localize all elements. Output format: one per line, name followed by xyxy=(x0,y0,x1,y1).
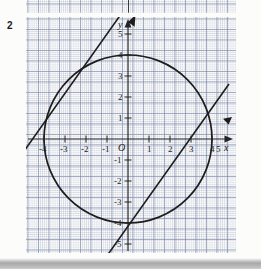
x-tick-label--2: -2 xyxy=(81,145,89,154)
secant-line-lower-right xyxy=(104,84,229,253)
x-tick-label-3: 3 xyxy=(189,145,194,154)
x-tick-label-4: 4 xyxy=(210,145,215,154)
worksheet-page: 2 xyxy=(0,0,261,258)
x-tick-label--4: -4 xyxy=(39,145,47,154)
y-tick-label--4: -4 xyxy=(114,219,122,228)
y-tick-label--2: -2 xyxy=(114,177,122,186)
y-tick-label--3: -3 xyxy=(114,198,122,207)
x-tick-label-2: 2 xyxy=(168,145,173,154)
x-axis-label: x xyxy=(224,143,228,153)
y-tick-label--5: -5 xyxy=(114,240,122,249)
x-tick-label--1: -1 xyxy=(102,145,110,154)
secant-line-arrowhead xyxy=(223,117,232,124)
y-tick-label-1: 1 xyxy=(118,114,123,123)
y-tick-label--1: -1 xyxy=(114,156,122,165)
coordinate-graph: -5 -4 -3 -2 -1 1 2 3 4 5 5 4 3 2 1 -1 -2… xyxy=(26,17,236,253)
y-tick-label-2: 2 xyxy=(118,93,123,102)
x-tick-label-1: 1 xyxy=(147,145,152,154)
x-axis xyxy=(28,136,233,143)
exercise-number: 2 xyxy=(7,20,13,31)
x-tick-label--3: -3 xyxy=(60,145,68,154)
page-bottom-shadow-band xyxy=(0,258,261,269)
y-tick-label-5: 5 xyxy=(118,30,123,39)
y-axis xyxy=(125,19,132,251)
x-tick-label-5-visible: 5 xyxy=(216,145,221,154)
y-tick-label-3: 3 xyxy=(118,72,123,81)
y-axis-label: y xyxy=(118,20,122,30)
y-tick-label-4: 4 xyxy=(118,51,123,60)
origin-label: O xyxy=(118,143,125,153)
graph-drawing-layer xyxy=(26,17,236,253)
